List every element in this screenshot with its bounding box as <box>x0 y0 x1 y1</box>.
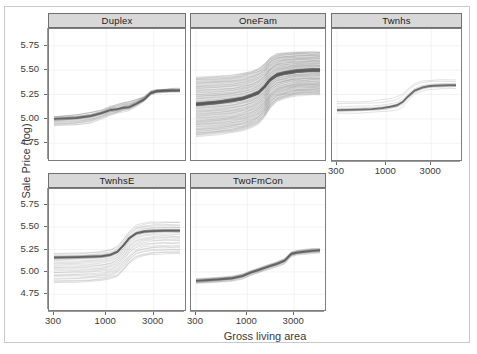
grid-lines <box>49 29 185 160</box>
x-tick-label: 3000 <box>276 316 310 325</box>
x-tick-label: 3000 <box>136 316 170 325</box>
ice-curve-bundle <box>196 248 320 283</box>
x-axis-line <box>331 161 460 162</box>
grid-lines <box>49 189 185 310</box>
panel-plot-twnhse <box>48 188 186 311</box>
grid-lines <box>332 29 461 160</box>
ice-curve-bundle <box>196 52 320 137</box>
y-tick-label: 5.00 <box>9 266 39 275</box>
x-tick-label: 300 <box>319 166 353 175</box>
y-tick-label: 5.00 <box>9 113 39 122</box>
panel-strip-duplex: Duplex <box>48 13 186 28</box>
average-curve <box>196 250 320 280</box>
panel-twnhs: Twnhs <box>331 13 462 161</box>
y-tick-label: 4.75 <box>9 288 39 297</box>
panel-strip-onefam: OneFam <box>190 13 326 28</box>
x-tick-label: 1000 <box>88 316 122 325</box>
y-tick-label: 5.50 <box>9 64 39 73</box>
y-tick-label: 4.75 <box>9 137 39 146</box>
panel-plot-duplex <box>48 28 186 161</box>
ice-plot-figure: Sale Price (log) Gross living area Duple… <box>0 0 477 354</box>
x-axis-title: Gross living area <box>190 330 340 342</box>
ice-curves-onefam <box>191 29 325 160</box>
y-axis-line <box>47 188 48 309</box>
x-tick-label: 300 <box>36 316 70 325</box>
x-axis-line <box>190 311 324 312</box>
ice-curves-twofmcon <box>191 189 325 310</box>
ice-curves-twnhse <box>49 189 185 310</box>
y-tick-label: 5.50 <box>9 221 39 230</box>
y-axis-line <box>47 28 48 159</box>
ice-curve-bundle <box>54 88 180 126</box>
x-axis-line <box>48 311 184 312</box>
panel-strip-twnhs: Twnhs <box>331 13 462 28</box>
y-tick-label: 5.25 <box>9 89 39 98</box>
y-tick-label: 5.25 <box>9 244 39 253</box>
panel-plot-twofmcon <box>190 188 326 311</box>
panel-strip-twofmcon: TwoFmCon <box>190 173 326 188</box>
x-tick-label: 3000 <box>413 166 447 175</box>
ice-curves-twnhs <box>332 29 461 160</box>
panel-strip-twnhse: TwnhsE <box>48 173 186 188</box>
y-tick-label: 5.75 <box>9 40 39 49</box>
panel-twnhse: TwnhsE <box>48 173 186 311</box>
panel-plot-twnhs <box>331 28 462 161</box>
panel-plot-onefam <box>190 28 326 161</box>
x-tick-label: 1000 <box>229 316 263 325</box>
x-tick-label: 300 <box>178 316 212 325</box>
panel-onefam: OneFam <box>190 13 326 161</box>
y-tick-label: 5.75 <box>9 199 39 208</box>
x-tick-label: 1000 <box>368 166 402 175</box>
panel-duplex: Duplex <box>48 13 186 161</box>
ice-curves-duplex <box>49 29 185 160</box>
panel-twofmcon: TwoFmCon <box>190 173 326 311</box>
